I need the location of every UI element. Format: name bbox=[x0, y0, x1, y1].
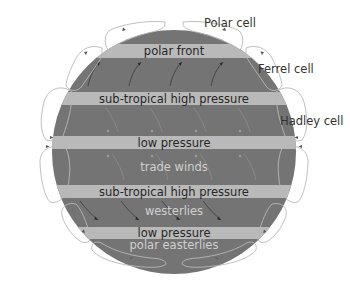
label-westerlies: westerlies bbox=[145, 204, 203, 218]
label-polar-front: polar front bbox=[144, 44, 205, 58]
atmospheric-circulation-diagram: polar front sub-tropical high pressure l… bbox=[0, 0, 350, 282]
label-polar-easterlies: polar easterlies bbox=[130, 238, 219, 252]
label-trade-winds: trade winds bbox=[140, 160, 208, 174]
label-subtropical-high-north: sub-tropical high pressure bbox=[99, 92, 249, 106]
label-low-pressure-equator: low pressure bbox=[138, 136, 211, 150]
label-subtropical-high-south: sub-tropical high pressure bbox=[99, 185, 249, 199]
label-hadley-cell: Hadley cell bbox=[280, 114, 344, 128]
label-ferrel-cell: Ferrel cell bbox=[258, 62, 314, 76]
label-polar-cell: Polar cell bbox=[204, 16, 256, 30]
